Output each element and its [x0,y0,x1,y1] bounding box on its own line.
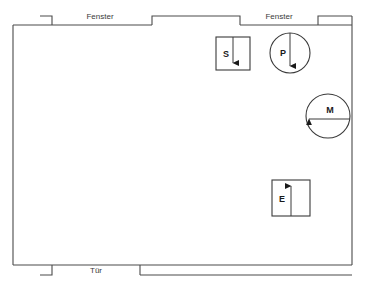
furniture-p-label: P [280,48,286,58]
bottom-wall-segment-left [40,265,52,275]
wall-label-fenster-right: Fenster [265,12,292,21]
furniture-s[interactable]: S [216,37,250,70]
furniture-p[interactable]: P [270,33,310,73]
top-wall-segment-middle [152,16,240,25]
floor-plan-canvas: Fenster Fenster Tür S P [0,0,365,289]
furniture-m-label: M [326,105,334,115]
furniture-s-label: S [223,49,229,59]
furniture-m-body [306,94,350,138]
wall-label-fenster-left: Fenster [86,12,113,21]
top-wall-segment-left [40,16,52,25]
top-wall-segment-right [318,16,352,25]
furniture-e-label: E [279,194,285,204]
wall-label-tuer: Tür [90,266,102,275]
furniture-m[interactable]: M [306,94,350,138]
floor-plan-diagram: Fenster Fenster Tür S P [0,0,365,289]
furniture-e[interactable]: E [272,180,310,216]
